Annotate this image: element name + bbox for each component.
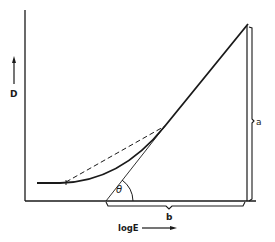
x-axis-arrow-icon	[142, 226, 177, 230]
average-gradient-chord	[66, 126, 165, 182]
angle-label: θ	[116, 184, 122, 195]
y-axis-label: D	[10, 89, 17, 99]
density-curve	[37, 24, 248, 183]
horizontal-extent-label: b	[166, 212, 173, 222]
x-axis-label: logE	[118, 223, 139, 233]
tangent-line	[106, 126, 165, 201]
characteristic-curve-diagram: D θ a b logE	[0, 0, 275, 242]
vertical-bracket	[249, 27, 254, 201]
horizontal-brace	[106, 202, 245, 209]
vertical-extent-label: a	[256, 117, 262, 127]
angle-arc	[122, 180, 133, 201]
y-axis-arrow-icon	[12, 56, 16, 84]
